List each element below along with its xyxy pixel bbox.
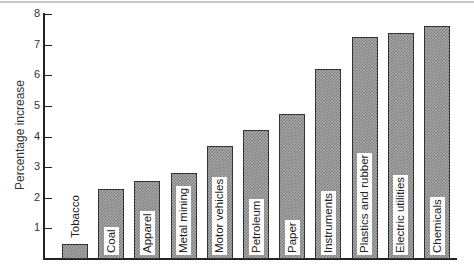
y-tick-label: 3 — [26, 160, 40, 172]
bar — [62, 244, 88, 259]
y-tick — [45, 137, 52, 138]
y-tick — [45, 198, 52, 199]
top-border-line — [0, 1, 474, 3]
bar-label: Metal mining — [176, 186, 191, 255]
bar-label: Chemicals — [430, 197, 445, 255]
bar-label: Motor vehicles — [212, 177, 227, 255]
y-axis-label: Percentage increase — [13, 80, 27, 190]
y-tick — [45, 106, 52, 107]
bar-label: Apparel — [140, 211, 155, 255]
bar-label: Electric utilities — [393, 175, 408, 255]
bar-label: Tobacco — [68, 193, 83, 240]
y-tick-label: 1 — [26, 221, 40, 233]
bar-label: Instruments — [321, 191, 336, 255]
bar-label: Coal — [104, 227, 119, 255]
y-tick — [45, 75, 52, 76]
y-tick-label: 8 — [26, 7, 40, 19]
y-tick-label: 5 — [26, 99, 40, 111]
bar-label: Paper — [285, 220, 300, 255]
y-tick-label: 4 — [26, 130, 40, 142]
y-tick — [45, 167, 52, 168]
bar-label: Petroleum — [249, 199, 264, 255]
y-tick — [45, 228, 52, 229]
y-tick-label: 6 — [26, 68, 40, 80]
y-tick-label: 7 — [26, 38, 40, 50]
y-tick — [45, 45, 52, 46]
y-tick-label: 2 — [26, 191, 40, 203]
bar-label: Plastics and rubber — [357, 153, 372, 255]
y-tick — [45, 14, 52, 15]
